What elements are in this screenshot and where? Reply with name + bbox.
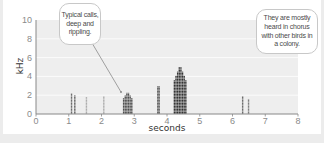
callout-line: heard in chorus <box>261 23 312 32</box>
y-tick-label: 2 <box>27 90 32 100</box>
syllable <box>71 93 72 114</box>
syllable <box>242 96 243 114</box>
x-tick-label: 7 <box>263 116 268 126</box>
y-tick-label: 4 <box>27 71 32 81</box>
x-tick-label: 6 <box>230 116 235 126</box>
callout-line: a colony. <box>261 40 312 49</box>
x-tick-label: 0 <box>33 116 38 126</box>
x-tick-label: 5 <box>197 116 202 126</box>
callout-chorus: They are mostly heard in chorus with oth… <box>256 9 318 54</box>
y-tick-label: 0 <box>27 109 32 119</box>
x-tick-label: 3 <box>132 116 137 126</box>
x-tick-label: 8 <box>295 116 300 126</box>
x-axis-title: seconds <box>149 123 186 133</box>
syllable <box>157 86 160 114</box>
y-tick-label: 6 <box>27 53 32 63</box>
syllable <box>103 96 104 114</box>
syllable <box>74 95 75 114</box>
callout-line: Typical calls, <box>62 11 99 20</box>
x-tick-label: 1 <box>66 116 71 126</box>
y-axis-title: kHz <box>15 57 25 74</box>
callout-line: with other birds in <box>261 32 312 41</box>
callout-typical-calls: Typical calls, deep and rippling. <box>59 3 101 45</box>
syllable <box>86 97 87 114</box>
syllable <box>248 99 249 114</box>
callout-line: They are mostly <box>261 14 312 23</box>
y-tick-label: 10 <box>22 15 32 25</box>
x-tick-label: 2 <box>99 116 104 126</box>
callout-line: deep and <box>62 20 99 29</box>
callout-line: rippling. <box>62 28 99 37</box>
y-tick-label: 8 <box>27 34 32 44</box>
callout-leader-dot <box>120 91 122 93</box>
